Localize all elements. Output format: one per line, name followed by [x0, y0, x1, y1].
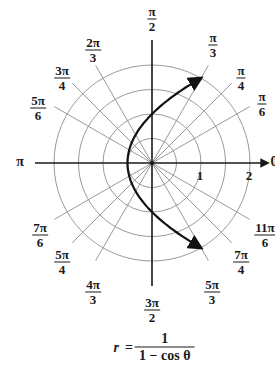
- angle-label-5pi-over-4: 5π4: [54, 249, 70, 276]
- angle-label-numerator: 2π: [85, 37, 101, 51]
- angle-label-pi-over-6: π6: [257, 91, 266, 118]
- grid-radial-line: [54, 163, 152, 219]
- angle-label-3pi-over-2: 3π2: [144, 297, 160, 324]
- angle-label-numerator: 3π: [54, 65, 70, 79]
- angle-label-numerator: 5π: [30, 95, 46, 109]
- grid-radial-line: [152, 107, 250, 163]
- angle-label-denominator: 6: [259, 105, 266, 118]
- axis-label-pi: π: [16, 154, 24, 170]
- grid-radial-line: [96, 163, 152, 261]
- angle-label-3pi-over-4: 3π4: [54, 65, 70, 92]
- axis-label-zero: 0: [271, 154, 276, 170]
- angle-label-numerator: 4π: [85, 279, 101, 293]
- angle-label-denominator: 6: [35, 109, 42, 122]
- angle-label-numerator: π: [236, 65, 245, 79]
- equation-fraction: 1 1 − cos θ: [139, 332, 190, 363]
- radial-tick-1: 1: [197, 168, 204, 184]
- grid-radial-line: [72, 163, 152, 243]
- grid-radial-line: [152, 83, 232, 163]
- angle-label-pi-over-3: π3: [208, 32, 217, 59]
- angle-label-denominator: 2: [149, 311, 156, 324]
- grid-radial-line: [96, 65, 152, 163]
- angle-label-numerator: 5π: [204, 279, 220, 293]
- equation: r = 1 1 − cos θ: [114, 332, 191, 363]
- polar-plot: [0, 0, 275, 368]
- radial-tick-2: 2: [246, 168, 253, 184]
- angle-label-denominator: 3: [90, 293, 97, 306]
- angle-label-5pi-over-6: 5π6: [30, 95, 46, 122]
- angle-label-denominator: 4: [59, 263, 66, 276]
- angle-label-numerator: 5π: [54, 249, 70, 263]
- angle-label-denominator: 4: [238, 263, 245, 276]
- angle-label-denominator: 4: [238, 79, 245, 92]
- angle-label-pi-over-2: π2: [147, 6, 156, 33]
- grid-radial-line: [54, 107, 152, 163]
- angle-label-numerator: π: [208, 32, 217, 46]
- angle-label-numerator: 3π: [144, 297, 160, 311]
- angle-label-2pi-over-3: 2π3: [85, 37, 101, 64]
- angle-label-numerator: 11π: [254, 222, 275, 236]
- angle-label-5pi-over-3: 5π3: [204, 279, 220, 306]
- grid-radial-line: [72, 83, 152, 163]
- angle-label-numerator: π: [257, 91, 266, 105]
- angle-label-7pi-over-4: 7π4: [233, 249, 249, 276]
- angle-label-denominator: 2: [149, 20, 156, 33]
- angle-label-denominator: 3: [209, 293, 216, 306]
- angle-label-numerator: 7π: [32, 222, 48, 236]
- angle-label-denominator: 3: [210, 46, 217, 59]
- equation-lhs: r: [114, 339, 119, 355]
- angle-label-4pi-over-3: 4π3: [85, 279, 101, 306]
- angle-label-11pi-over-6: 11π6: [254, 222, 275, 249]
- grid-radial-line: [152, 163, 232, 243]
- angle-label-pi-over-4: π4: [236, 65, 245, 92]
- angle-label-denominator: 4: [59, 79, 66, 92]
- pole-dot: [150, 161, 154, 165]
- angle-label-denominator: 3: [90, 51, 97, 64]
- equation-denominator: 1 − cos θ: [139, 348, 190, 363]
- angle-label-7pi-over-6: 7π6: [32, 222, 48, 249]
- angle-label-numerator: π: [147, 6, 156, 20]
- angle-label-numerator: 7π: [233, 249, 249, 263]
- equation-equals: =: [125, 339, 133, 355]
- angle-label-denominator: 6: [37, 236, 44, 249]
- angle-label-denominator: 6: [262, 236, 269, 249]
- equation-numerator: 1: [135, 332, 194, 348]
